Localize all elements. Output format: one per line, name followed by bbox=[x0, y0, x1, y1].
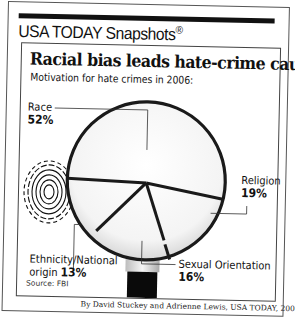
magnifier-handle bbox=[127, 272, 158, 299]
chart-panel: Racial bias leads hate-crime causes Moti… bbox=[16, 42, 281, 301]
byline-credit: By David Stuckey and Adrienne Lewis, USA… bbox=[81, 300, 295, 314]
sexual-orientation-value: 16% bbox=[178, 270, 204, 285]
registered-mark: ® bbox=[175, 24, 182, 36]
label-sexual-orientation: Sexual Orientation 16% bbox=[178, 259, 271, 286]
brand-title: USA TODAY Snapshots® bbox=[18, 20, 182, 45]
race-value: 52% bbox=[27, 112, 53, 127]
ethnicity-value: 13% bbox=[61, 265, 87, 280]
religion-value: 19% bbox=[241, 186, 267, 201]
label-race: Race 52% bbox=[27, 101, 53, 127]
source-note: Source: FBI bbox=[26, 278, 69, 288]
brand-name: USA TODAY Snapshots bbox=[18, 22, 175, 44]
label-religion: Religion 19% bbox=[241, 175, 281, 201]
ethnicity-name-line2: origin bbox=[29, 266, 57, 280]
snapshot-clipping: USA TODAY Snapshots® Racial bias leads h… bbox=[2, 1, 290, 317]
label-ethnicity: Ethnicity/National origin 13% bbox=[29, 254, 117, 281]
